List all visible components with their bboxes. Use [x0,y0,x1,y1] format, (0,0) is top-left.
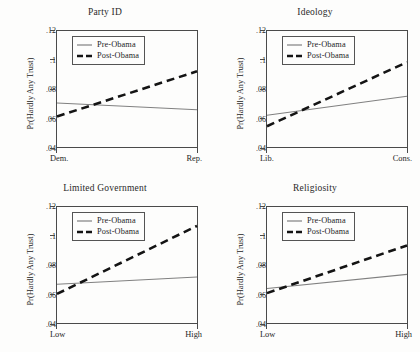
x-tick-label: Cons. [393,154,412,163]
x-tick-mark [266,324,267,329]
series-line-pre-obama [267,96,407,115]
legend-item-post-obama: Post-Obama [287,50,349,61]
y-tick-mark [50,118,55,119]
legend-item-pre-obama: Pre-Obama [77,215,139,226]
y-axis-ticks: .12 .1 .08 .06 .04 [20,176,56,352]
series-line-pre-obama [57,103,197,110]
legend-label: Post-Obama [97,227,139,236]
x-tick-label: Dem. [50,154,68,163]
solid-line-icon [287,41,302,49]
legend-label: Pre-Obama [97,216,136,225]
y-tick-mark [260,59,265,60]
legend-label: Pre-Obama [307,40,346,49]
legend-label: Post-Obama [307,227,349,236]
series-line-pre-obama [267,274,407,288]
x-tick-mark [56,148,57,153]
y-tick-mark [50,206,55,207]
x-tick-mark [197,324,198,329]
y-tick-mark [260,118,265,119]
chart-panel-religiosity: Religiosity Pr(Hardly Any Trust) .12 .1 … [210,176,420,352]
legend-item-post-obama: Post-Obama [287,226,349,237]
y-axis-ticks: .12 .1 .08 .06 .04 [230,0,266,176]
x-tick-mark [56,324,57,329]
chart-panel-party-id: Party ID Pr(Hardly Any Trust) .12 .1 .08… [0,0,210,176]
chart-panel-ideology: Ideology Pr(Hardly Any Trust) .12 .1 .08… [210,0,420,176]
legend-item-pre-obama: Pre-Obama [287,39,349,50]
x-tick-label: Rep. [186,154,202,163]
y-tick-mark [260,235,265,236]
y-tick-mark [260,265,265,266]
figure-multi-panel-chart: Party ID Pr(Hardly Any Trust) .12 .1 .08… [0,0,420,352]
series-line-pre-obama [57,277,197,284]
x-tick-label: Low [50,330,65,339]
legend-item-post-obama: Post-Obama [77,50,139,61]
solid-line-icon [77,217,92,225]
y-tick-mark [50,148,55,149]
y-tick-mark [50,89,55,90]
legend: Pre-Obama Post-Obama [282,36,355,65]
x-tick-mark [266,148,267,153]
solid-line-icon [77,41,92,49]
y-axis-ticks: .12 .1 .08 .06 .04 [230,176,266,352]
y-tick-mark [50,59,55,60]
legend-item-pre-obama: Pre-Obama [287,215,349,226]
y-tick-mark [50,235,55,236]
legend: Pre-Obama Post-Obama [282,212,355,241]
y-tick-mark [260,324,265,325]
solid-line-icon [287,217,302,225]
dashed-line-icon [287,52,302,60]
y-tick-mark [50,294,55,295]
legend-label: Pre-Obama [307,216,346,225]
x-tick-label: High [395,330,412,339]
dashed-line-icon [77,52,92,60]
legend-item-pre-obama: Pre-Obama [77,39,139,50]
y-tick-mark [50,324,55,325]
y-tick-mark [260,30,265,31]
legend-label: Post-Obama [97,51,139,60]
y-tick-mark [260,148,265,149]
legend: Pre-Obama Post-Obama [72,212,145,241]
dashed-line-icon [77,228,92,236]
y-tick-mark [50,265,55,266]
x-tick-mark [407,148,408,153]
legend-item-post-obama: Post-Obama [77,226,139,237]
dashed-line-icon [287,228,302,236]
legend-label: Pre-Obama [97,40,136,49]
x-tick-label: Low [260,330,275,339]
series-line-post-obama [57,71,197,116]
x-tick-mark [407,324,408,329]
x-tick-label: High [185,330,202,339]
x-tick-label: Lib. [260,154,274,163]
y-tick-mark [260,89,265,90]
x-tick-mark [197,148,198,153]
series-line-post-obama [267,62,407,126]
legend: Pre-Obama Post-Obama [72,36,145,65]
y-tick-mark [260,206,265,207]
y-tick-mark [260,294,265,295]
y-tick-mark [50,30,55,31]
legend-label: Post-Obama [307,51,349,60]
y-axis-ticks: .12 .1 .08 .06 .04 [20,0,56,176]
chart-panel-limited-government: Limited Government Pr(Hardly Any Trust) … [0,176,210,352]
